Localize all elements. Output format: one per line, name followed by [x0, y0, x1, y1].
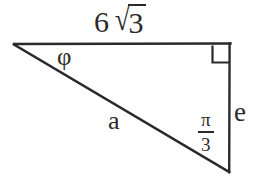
- top-side-radicand: 3: [128, 4, 146, 38]
- label-angle-phi: φ: [57, 44, 71, 69]
- label-angle-pi-over-three: π 3: [198, 110, 214, 156]
- radical-sign-glyph: √: [115, 4, 130, 38]
- triangle-side-top: [14, 44, 231, 45]
- triangle-hypotenuse: [14, 45, 229, 173]
- geometry-figure: 6 √ 3 φ a e π 3: [0, 0, 255, 180]
- top-side-coefficient: 6: [94, 4, 112, 37]
- right-angle-marker-icon: [213, 46, 230, 63]
- angle-fraction-numerator: π: [198, 110, 214, 131]
- square-root-icon: √ 3: [112, 4, 146, 38]
- label-hypotenuse-length: a: [108, 108, 120, 134]
- angle-fraction-denominator: 3: [198, 131, 214, 156]
- label-top-side-length: 6 √ 3: [94, 4, 146, 38]
- label-vertical-side-length: e: [234, 99, 246, 126]
